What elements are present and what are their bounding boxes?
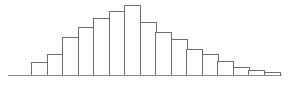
histogram-svg bbox=[0, 0, 289, 90]
histogram-bars bbox=[32, 6, 281, 76]
histogram-bar bbox=[156, 33, 172, 76]
histogram-bar bbox=[187, 50, 203, 76]
histogram-bar bbox=[172, 40, 188, 76]
histogram-bar bbox=[79, 28, 95, 76]
histogram-bar bbox=[94, 19, 110, 76]
histogram-bar bbox=[63, 38, 79, 76]
histogram-bar bbox=[32, 63, 48, 76]
histogram-bar bbox=[125, 6, 141, 76]
histogram-bar bbox=[203, 55, 219, 76]
histogram-bar bbox=[141, 23, 157, 76]
histogram-figure bbox=[0, 0, 289, 90]
histogram-bar bbox=[234, 68, 250, 76]
histogram-bar bbox=[249, 71, 265, 76]
histogram-bar bbox=[48, 55, 64, 76]
histogram-bar bbox=[110, 12, 126, 76]
histogram-bar bbox=[218, 62, 234, 76]
